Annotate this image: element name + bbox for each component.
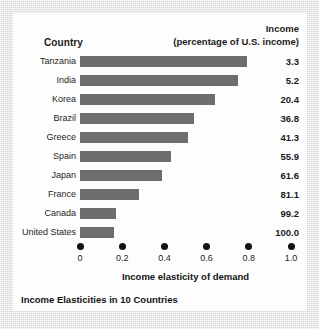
axis-tick-label: 0.6 [192, 253, 222, 263]
x-axis-title: Income elasticity of demand [80, 271, 291, 282]
row-value-income: 55.9 [253, 151, 299, 162]
chart-row: Tanzania3.3 [13, 53, 307, 72]
chart-row: United States100.0 [13, 224, 307, 243]
bar [80, 170, 162, 181]
row-label-country: Spain [13, 151, 76, 161]
row-value-income: 61.6 [253, 170, 299, 181]
chart-row: Greece41.3 [13, 129, 307, 148]
row-label-country: Greece [13, 132, 76, 142]
axis-tick-label: 1.0 [276, 253, 306, 263]
row-value-income: 5.2 [253, 75, 299, 86]
row-value-income: 100.0 [253, 227, 299, 238]
chart-row: France81.1 [13, 186, 307, 205]
bar [80, 208, 116, 219]
row-label-country: Brazil [13, 113, 76, 123]
x-axis-ticks: 00.20.40.60.81.0 [80, 243, 291, 273]
axis-tick-dot [119, 243, 126, 250]
row-label-country: United States [13, 227, 76, 237]
row-value-income: 81.1 [253, 189, 299, 200]
row-value-income: 3.3 [253, 56, 299, 67]
row-label-country: Canada [13, 208, 76, 218]
axis-tick-label: 0.2 [107, 253, 137, 263]
x-axis: 00.20.40.60.81.0 [80, 243, 307, 273]
row-value-income: 99.2 [253, 208, 299, 219]
table-header: Country Income (percentage of U.S. incom… [13, 19, 307, 53]
bar [80, 75, 238, 86]
chart-row: Japan61.6 [13, 167, 307, 186]
bar [80, 227, 114, 238]
chart-row: Spain55.9 [13, 148, 307, 167]
row-label-country: Tanzania [13, 56, 76, 66]
row-label-country: Korea [13, 94, 76, 104]
bar [80, 113, 194, 124]
column-header-country: Country [13, 37, 83, 48]
row-label-country: France [13, 189, 76, 199]
figure-card: Country Income (percentage of U.S. incom… [13, 13, 307, 311]
bar [80, 132, 188, 143]
column-header-income-line1: Income [266, 23, 299, 34]
axis-tick-label: 0 [65, 253, 95, 263]
axis-tick-dot [203, 243, 210, 250]
column-header-income-line2: (percentage of U.S. income) [173, 36, 299, 47]
chart-rows: Tanzania3.3India5.2Korea20.4Brazil36.8Gr… [13, 53, 307, 243]
chart-row: Brazil36.8 [13, 110, 307, 129]
axis-tick-label: 0.8 [234, 253, 264, 263]
bar [80, 189, 139, 200]
bar [80, 151, 171, 162]
row-label-country: Japan [13, 170, 76, 180]
axis-tick-dot [161, 243, 168, 250]
row-value-income: 36.8 [253, 113, 299, 124]
axis-tick-dot [77, 243, 84, 250]
figure-caption: Income Elasticities in 10 Countries [21, 294, 178, 305]
chart-row: Canada99.2 [13, 205, 307, 224]
axis-tick-dot [245, 243, 252, 250]
axis-tick-label: 0.4 [149, 253, 179, 263]
chart-row: Korea20.4 [13, 91, 307, 110]
chart-row: India5.2 [13, 72, 307, 91]
row-value-income: 20.4 [253, 94, 299, 105]
row-value-income: 41.3 [253, 132, 299, 143]
bar [80, 94, 215, 105]
bar [80, 56, 247, 67]
row-label-country: India [13, 75, 76, 85]
axis-tick-dot [288, 243, 295, 250]
